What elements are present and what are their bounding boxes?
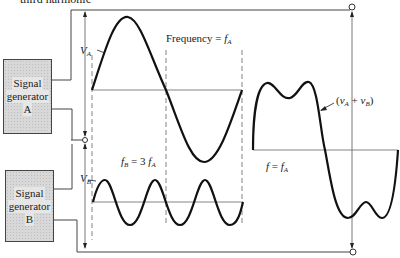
wire-gen-a-bottom — [51, 109, 72, 140]
gen-a-line2: generator — [6, 90, 50, 103]
label-frequency-fa: Frequency = fA — [166, 32, 231, 46]
wiring — [51, 10, 350, 252]
gen-b-id: B — [25, 213, 34, 226]
output-terminal-bottom — [350, 249, 356, 255]
harmonic-synthesis-diagram: third harmonic — [0, 0, 400, 258]
junction-terminal — [83, 138, 88, 143]
gen-a-line1: Signal — [12, 77, 42, 90]
label-vb: VB — [80, 172, 91, 186]
wire-gen-b-top — [53, 144, 72, 189]
gen-b-line2: generator — [8, 200, 52, 213]
label-fb-equals-3fa: fB = 3 fA — [121, 155, 156, 169]
gen-b-line1: Signal — [14, 187, 44, 200]
label-f-equals-fa: f = fA — [266, 160, 288, 174]
signal-generator-a: Signal generator A — [3, 59, 52, 134]
output-terminal-top — [349, 4, 355, 10]
label-va: VA — [80, 44, 91, 58]
signal-generator-b: Signal generator B — [5, 170, 54, 242]
label-sum-va-vb: (vA + vB) — [336, 94, 373, 108]
gen-a-id: A — [23, 103, 33, 116]
waveform-b — [93, 180, 243, 225]
wire-gen-b-bottom — [53, 220, 350, 252]
